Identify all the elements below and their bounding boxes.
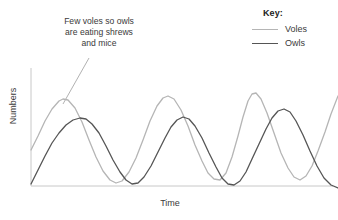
legend-label-voles: Voles bbox=[285, 24, 307, 34]
annotation-line-2: are eating shrews bbox=[36, 27, 162, 38]
series-line-voles bbox=[31, 93, 338, 183]
annotation-line-3: and mice bbox=[36, 38, 162, 49]
legend: Key: Voles Owls bbox=[252, 8, 336, 51]
x-axis-label: Time bbox=[130, 198, 210, 208]
y-axis-label: Numbers bbox=[8, 76, 18, 136]
legend-item-voles: Voles bbox=[252, 23, 336, 35]
population-cycle-chart: Numbers Time Few voles so owls are eatin… bbox=[0, 0, 338, 220]
annotation-line-1: Few voles so owls bbox=[36, 16, 162, 27]
series-line-owls bbox=[31, 109, 338, 188]
legend-swatch-owls bbox=[252, 43, 278, 44]
legend-item-owls: Owls bbox=[252, 37, 336, 49]
legend-label-owls: Owls bbox=[285, 38, 305, 48]
chart-annotation: Few voles so owls are eating shrews and … bbox=[36, 16, 162, 48]
legend-swatch-voles bbox=[252, 29, 278, 30]
annotation-leader-line bbox=[63, 58, 89, 104]
legend-title: Key: bbox=[263, 8, 336, 18]
